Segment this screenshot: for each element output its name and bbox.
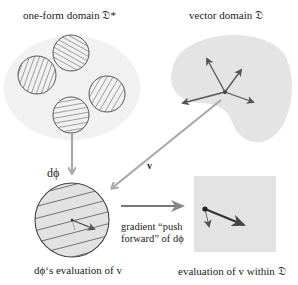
gradient-label-line1: gradient “push: [121, 221, 183, 233]
gradient-label-line2: forward” of dϕ: [121, 233, 184, 245]
dphi-label: dϕ: [47, 166, 59, 181]
v-label: v: [147, 160, 152, 171]
oneform-domain-region: [4, 36, 140, 140]
evaluation-within-label: evaluation of v within 𝔇: [178, 265, 286, 278]
dphi-circle: [30, 162, 115, 268]
oneform-domain-label: one-form domain 𝔇*: [23, 9, 116, 22]
vector-domain-label: vector domain 𝔇: [189, 9, 263, 22]
dphi-evaluation-label: dϕ‘s evaluation of v: [34, 264, 122, 276]
